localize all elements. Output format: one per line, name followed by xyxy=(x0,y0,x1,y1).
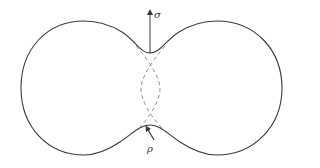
left-particle-dashed-arc xyxy=(136,46,160,131)
right-particle-dashed-arc xyxy=(141,46,165,131)
rho-label: ρ xyxy=(147,144,153,154)
rho-arrow xyxy=(147,128,154,140)
sigma-label: σ xyxy=(154,10,161,20)
